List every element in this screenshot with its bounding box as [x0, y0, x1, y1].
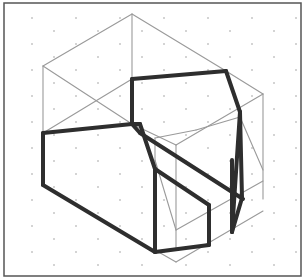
grid-dot: [141, 56, 142, 57]
grid-dot: [75, 121, 76, 122]
grid-dot: [273, 108, 274, 109]
thick-edge-line: [155, 245, 209, 252]
grid-dot: [53, 108, 54, 109]
grid-dot: [75, 95, 76, 96]
grid-dot: [163, 95, 164, 96]
grid-dot: [295, 225, 296, 226]
grid-dot: [75, 225, 76, 226]
grid-dot: [119, 225, 120, 226]
grid-dot: [53, 134, 54, 135]
grid-dot: [31, 199, 32, 200]
grid-dot: [97, 56, 98, 57]
grid-dot: [119, 173, 120, 174]
thin-edge-line: [43, 14, 132, 66]
grid-dot: [119, 95, 120, 96]
thin-edge-line: [196, 117, 240, 130]
grid-dot: [229, 108, 230, 109]
grid-dot: [273, 134, 274, 135]
grid-dot: [119, 199, 120, 200]
grid-dot: [185, 82, 186, 83]
grid-dot: [295, 121, 296, 122]
grid-dot: [53, 160, 54, 161]
thin-edge-line: [43, 66, 132, 124]
grid-dot: [31, 95, 32, 96]
grid-dot: [251, 17, 252, 18]
thin-edge-line: [176, 94, 263, 145]
grid-dot: [97, 186, 98, 187]
grid-dot: [229, 134, 230, 135]
thin-edge-line: [240, 117, 263, 170]
isometric-drawing-canvas: [0, 0, 305, 280]
grid-dot: [97, 82, 98, 83]
grid-dot: [251, 43, 252, 44]
grid-dot: [185, 56, 186, 57]
grid-dot: [273, 160, 274, 161]
grid-dot: [97, 160, 98, 161]
grid-dot: [185, 264, 186, 265]
grid-dot: [97, 238, 98, 239]
grid-dot: [141, 264, 142, 265]
grid-dot: [207, 43, 208, 44]
grid-dot: [163, 199, 164, 200]
grid-dot: [295, 43, 296, 44]
thick-edge-line: [140, 124, 155, 169]
grid-dot: [251, 251, 252, 252]
grid-dot: [119, 43, 120, 44]
grid-dot: [75, 199, 76, 200]
isometric-dot-grid: [31, 17, 296, 265]
grid-dot: [75, 17, 76, 18]
grid-dot: [31, 17, 32, 18]
grid-dot: [31, 147, 32, 148]
grid-dot: [53, 30, 54, 31]
grid-dot: [119, 69, 120, 70]
grid-dot: [75, 173, 76, 174]
grid-dot: [75, 43, 76, 44]
grid-dot: [119, 17, 120, 18]
grid-dot: [163, 43, 164, 44]
grid-dot: [295, 95, 296, 96]
grid-dot: [31, 121, 32, 122]
grid-dot: [251, 69, 252, 70]
grid-dot: [97, 30, 98, 31]
grid-dot: [97, 134, 98, 135]
grid-dot: [75, 251, 76, 252]
grid-dot: [207, 147, 208, 148]
grid-dot: [141, 30, 142, 31]
grid-dot: [251, 225, 252, 226]
thick-edge-line: [226, 71, 240, 112]
grid-dot: [251, 95, 252, 96]
grid-dot: [207, 121, 208, 122]
grid-dot: [295, 17, 296, 18]
grid-dot: [229, 56, 230, 57]
grid-dot: [163, 121, 164, 122]
grid-dot: [75, 147, 76, 148]
grid-dot: [185, 108, 186, 109]
grid-dot: [141, 82, 142, 83]
grid-dot: [53, 186, 54, 187]
grid-dot: [229, 264, 230, 265]
grid-dot: [53, 82, 54, 83]
thick-edge-line: [132, 71, 226, 79]
grid-dot: [295, 199, 296, 200]
grid-dot: [185, 238, 186, 239]
grid-dot: [295, 173, 296, 174]
grid-dot: [251, 199, 252, 200]
grid-dot: [251, 173, 252, 174]
grid-dot: [31, 225, 32, 226]
grid-dot: [141, 238, 142, 239]
grid-dot: [141, 186, 142, 187]
grid-dot: [273, 186, 274, 187]
grid-dot: [229, 238, 230, 239]
grid-dot: [295, 69, 296, 70]
grid-dot: [141, 108, 142, 109]
grid-dot: [119, 251, 120, 252]
grid-dot: [273, 212, 274, 213]
grid-dot: [119, 147, 120, 148]
grid-dot: [273, 82, 274, 83]
grid-dot: [141, 160, 142, 161]
grid-dot: [251, 147, 252, 148]
grid-dot: [53, 212, 54, 213]
grid-dot: [141, 212, 142, 213]
grid-dot: [31, 251, 32, 252]
grid-dot: [53, 238, 54, 239]
